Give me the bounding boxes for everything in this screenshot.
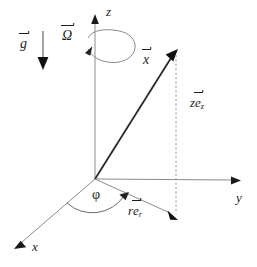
- axis-label-x: x: [32, 240, 38, 253]
- y-axis-line: [95, 179, 233, 180]
- axis-label-z: z: [106, 5, 111, 18]
- r-unit-vector-subscript: r: [139, 209, 142, 219]
- radial-vector-arrowhead: [168, 211, 179, 220]
- azimuth-angle-label: φ: [92, 188, 100, 202]
- position-vector-symbol: x: [143, 52, 149, 67]
- phi-arc-arrowhead: [119, 192, 129, 200]
- gravity-arrowhead: [38, 57, 49, 70]
- position-vector: [95, 49, 178, 179]
- position-vector-label: x: [143, 53, 149, 67]
- coordinate-diagram-svg: [0, 0, 257, 267]
- gravity-vector-label: g: [20, 37, 27, 51]
- gravity-vector-arrow: [38, 31, 49, 70]
- angular-velocity-label: Ω: [62, 29, 72, 43]
- y-axis: [95, 176, 241, 184]
- x-axis: [14, 179, 95, 249]
- z-unit-vector-symbol: e: [195, 95, 201, 110]
- z-axis-arrowhead: [91, 14, 99, 24]
- x-axis-arrowhead: [14, 241, 26, 249]
- gravity-symbol: g: [20, 36, 27, 51]
- z-unit-vector-subscript: z: [201, 101, 204, 111]
- z-axis: [91, 14, 99, 179]
- physics-diagram: z y x g Ω x zez rer φ: [0, 0, 257, 267]
- r-component-label: rer: [128, 204, 142, 219]
- omega-rotation-loop: [85, 30, 135, 63]
- position-vector-shaft: [95, 58, 171, 179]
- x-axis-line: [22, 179, 95, 242]
- y-axis-arrowhead: [231, 176, 241, 184]
- r-unit-vector-symbol: e: [133, 203, 139, 218]
- z-component-label: zez: [190, 96, 204, 111]
- omega-symbol: Ω: [62, 28, 72, 43]
- axis-label-y: y: [236, 191, 242, 204]
